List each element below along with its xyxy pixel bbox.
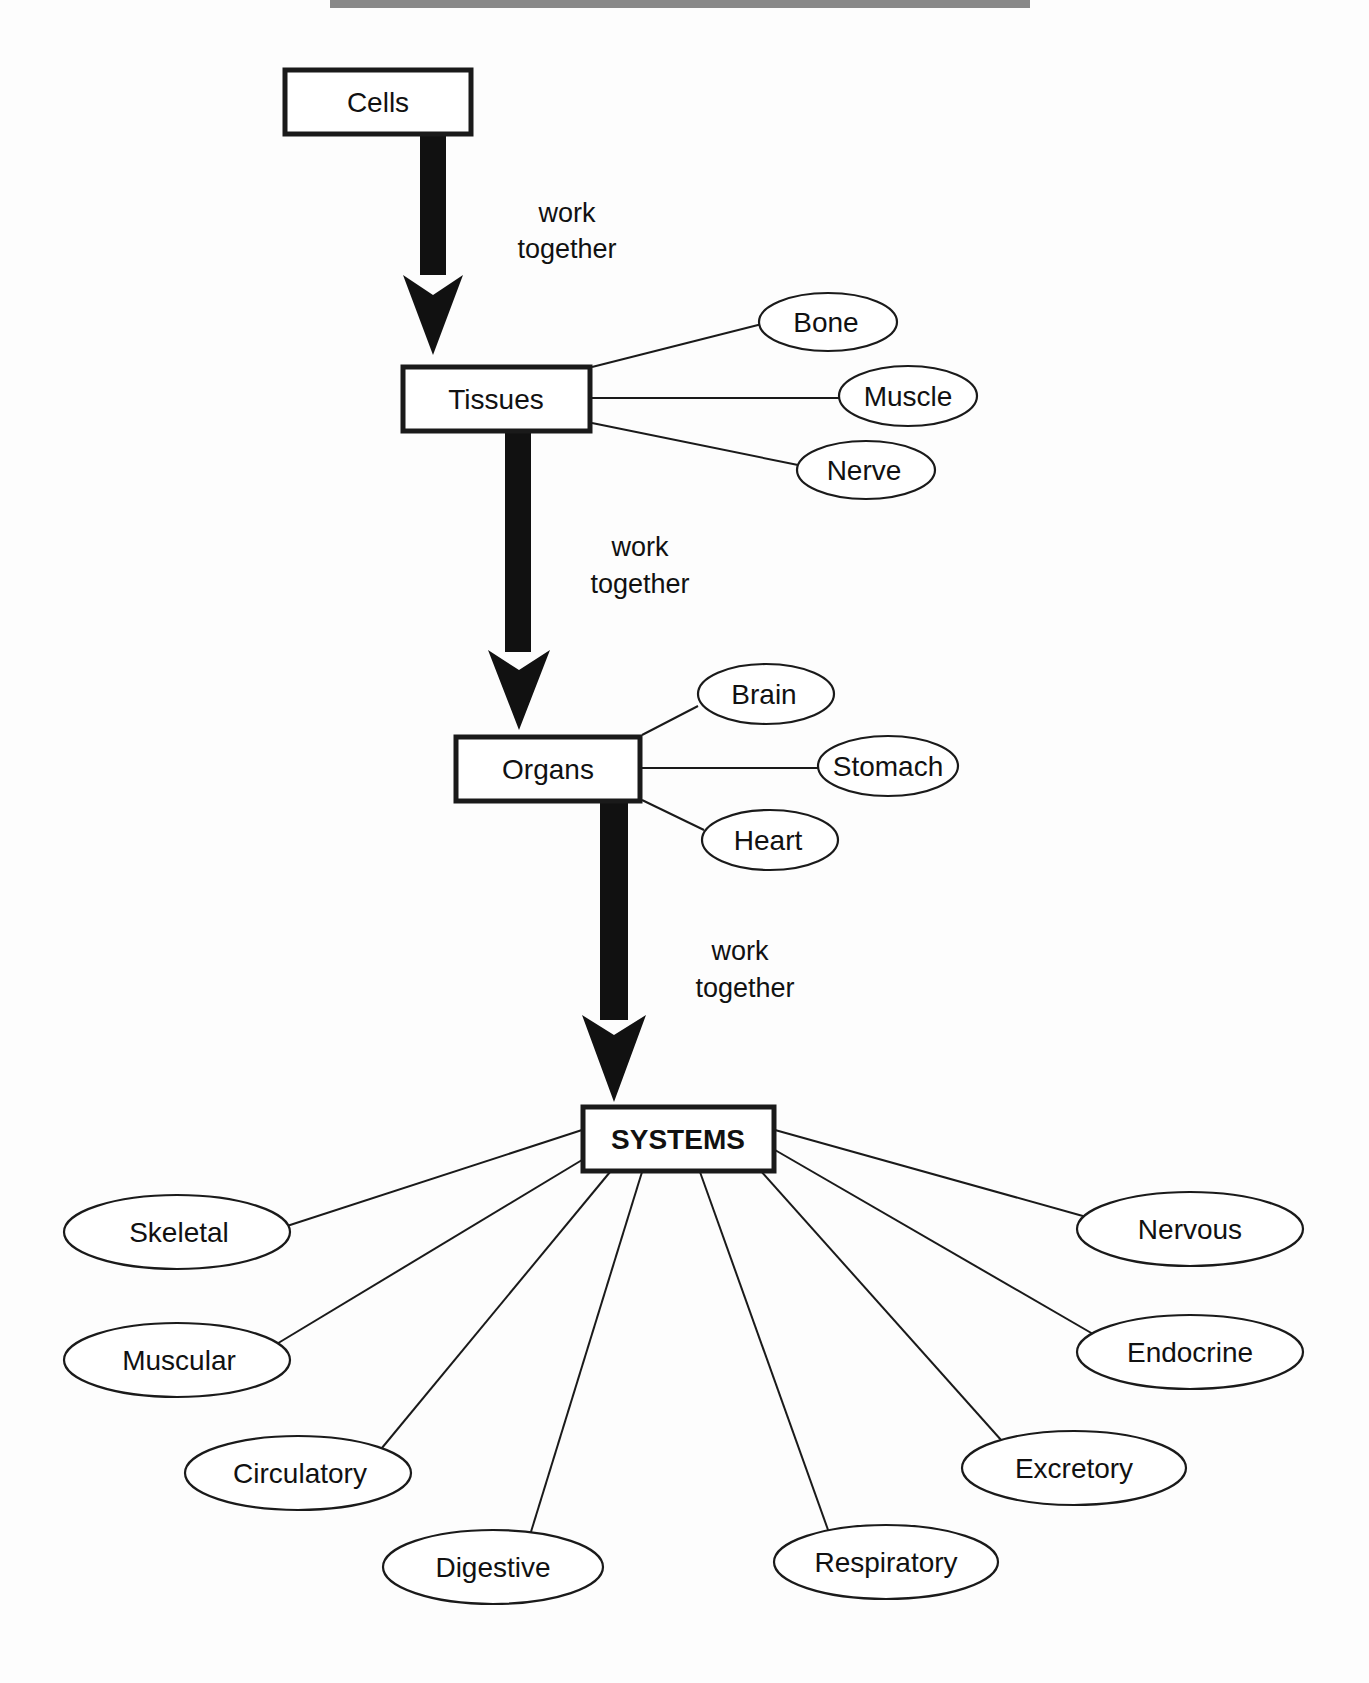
level-label: SYSTEMS: [611, 1124, 745, 1155]
oval-label: Stomach: [833, 751, 944, 782]
level-box-cells: Cells: [285, 70, 471, 134]
tissue-muscle: Muscle: [839, 366, 977, 426]
oval-label: Digestive: [435, 1552, 550, 1583]
organ-stomach: Stomach: [818, 736, 958, 796]
level-box-systems: SYSTEMS: [583, 1107, 774, 1171]
oval-label: Circulatory: [233, 1458, 367, 1489]
level-box-organs: Organs: [456, 737, 640, 801]
system-respiratory: Respiratory: [774, 1525, 998, 1599]
tissue-nerve: Nerve: [797, 441, 935, 499]
level-label: Tissues: [448, 384, 543, 415]
oval-label: Excretory: [1015, 1453, 1133, 1484]
arrow-label-line2: together: [517, 234, 616, 264]
arrow-label-line2: together: [590, 569, 689, 599]
level-label: Organs: [502, 754, 594, 785]
system-circulatory: Circulatory: [185, 1436, 411, 1510]
arrow-label-line2: together: [695, 973, 794, 1003]
level-label: Cells: [347, 87, 409, 118]
arrow-label-line1: work: [610, 532, 669, 562]
level-box-tissues: Tissues: [403, 367, 590, 431]
oval-label: Muscular: [122, 1345, 236, 1376]
oval-label: Muscle: [864, 381, 953, 412]
system-digestive: Digestive: [383, 1530, 603, 1604]
system-nervous: Nervous: [1077, 1192, 1303, 1266]
system-skeletal: Skeletal: [64, 1195, 290, 1269]
arrow-tissues-to-organs: [488, 432, 550, 730]
title-fragment: [330, 0, 1030, 8]
oval-label: Nerve: [827, 455, 902, 486]
arrow-label-line1: work: [537, 198, 596, 228]
oval-label: Brain: [731, 679, 796, 710]
system-muscular: Muscular: [64, 1323, 290, 1397]
system-excretory: Excretory: [962, 1431, 1186, 1505]
levels-of-organization-diagram: work together work together work togethe…: [0, 0, 1369, 1683]
oval-label: Skeletal: [129, 1217, 229, 1248]
arrow-organs-to-systems: [582, 800, 646, 1102]
tissue-bone: Bone: [759, 293, 897, 351]
organ-brain: Brain: [698, 664, 834, 724]
arrow-label-line1: work: [710, 936, 769, 966]
oval-label: Endocrine: [1127, 1337, 1253, 1368]
arrow-cells-to-tissues: [403, 135, 463, 355]
oval-label: Bone: [793, 307, 858, 338]
oval-label: Heart: [734, 825, 803, 856]
organ-heart: Heart: [702, 810, 838, 870]
oval-label: Nervous: [1138, 1214, 1242, 1245]
system-endocrine: Endocrine: [1077, 1315, 1303, 1389]
oval-label: Respiratory: [814, 1547, 957, 1578]
